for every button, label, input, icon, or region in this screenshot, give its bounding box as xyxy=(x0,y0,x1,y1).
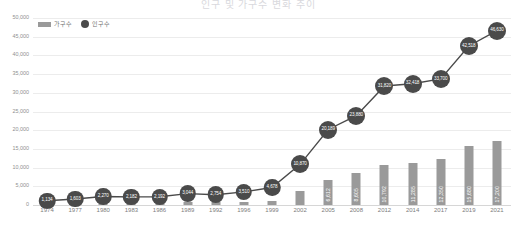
data-point-marker: 42,518 xyxy=(460,37,478,55)
y-axis-tick-label: 0 xyxy=(0,202,29,207)
plot-area: 6,6128,60510,79211,28512,35015,68017,200… xyxy=(33,18,511,205)
data-point-marker: 2,182 xyxy=(123,189,140,206)
data-point-marker: 33,700 xyxy=(432,70,450,88)
y-axis-tick-label: 40,000 xyxy=(0,53,29,58)
chart-title: 인구 및 가구수 변화 추이 xyxy=(0,0,517,9)
chart-legend: 가구수 인구수 xyxy=(38,20,110,28)
data-point-marker: 32,418 xyxy=(404,75,422,93)
x-axis-tick-label: 1977 xyxy=(68,207,81,213)
y-axis-tick-label: 35,000 xyxy=(0,71,29,76)
chart-container: 인구 및 가구수 변화 추이 05,00010,00015,00020,0002… xyxy=(0,0,517,234)
legend-label-households: 가구수 xyxy=(54,21,72,27)
x-axis-tick-label: 1986 xyxy=(153,207,166,213)
data-point-marker: 3,044 xyxy=(179,185,196,202)
x-axis-tick-label: 2014 xyxy=(406,207,419,213)
data-point-marker: 46,630 xyxy=(488,22,506,40)
y-axis-tick-label: 15,000 xyxy=(0,146,29,151)
data-point-marker: 2,754 xyxy=(208,186,225,203)
y-axis-tick-label: 10,000 xyxy=(0,165,29,170)
x-axis-tick-label: 1996 xyxy=(237,207,250,213)
x-axis-tick-label: 2012 xyxy=(378,207,391,213)
y-axis-tick-label: 25,000 xyxy=(0,109,29,114)
data-point-marker: 4,678 xyxy=(264,179,281,196)
x-axis-tick-label: 1999 xyxy=(265,207,278,213)
data-point-marker: 1,603 xyxy=(67,191,84,208)
x-axis-tick-label: 2002 xyxy=(293,207,306,213)
x-axis-tick-label: 1980 xyxy=(97,207,110,213)
data-point-marker: 20,189 xyxy=(319,121,337,139)
y-axis-tick-label: 30,000 xyxy=(0,90,29,95)
x-axis-tick-label: 2019 xyxy=(462,207,475,213)
x-axis-tick-label: 2005 xyxy=(322,207,335,213)
data-point-marker: 2,192 xyxy=(151,189,168,206)
x-axis-tick-label: 2017 xyxy=(434,207,447,213)
y-axis-tick-label: 5,000 xyxy=(0,184,29,189)
gridline xyxy=(33,205,511,206)
y-axis-tick-label: 20,000 xyxy=(0,127,29,132)
legend-label-population: 인구수 xyxy=(92,21,110,27)
legend-item-households[interactable]: 가구수 xyxy=(38,21,72,27)
x-axis-tick-label: 1983 xyxy=(125,207,138,213)
y-axis-tick-label: 45,000 xyxy=(0,34,29,39)
data-point-marker: 10,870 xyxy=(291,155,309,173)
bar-swatch-icon xyxy=(38,22,51,27)
data-point-marker: 2,270 xyxy=(95,188,112,205)
x-axis-tick-label: 1974 xyxy=(40,207,53,213)
data-point-marker: 23,880 xyxy=(347,107,365,125)
x-axis-tick-label: 2008 xyxy=(350,207,363,213)
x-axis-tick-label: 1989 xyxy=(181,207,194,213)
x-axis-tick-label: 2021 xyxy=(490,207,503,213)
legend-item-population[interactable]: 인구수 xyxy=(81,20,110,28)
y-axis-tick-label: 50,000 xyxy=(0,15,29,20)
x-axis-labels: 1974197719801983198619891992199619992002… xyxy=(33,207,511,221)
line-series-population xyxy=(33,18,511,205)
data-point-marker: 3,510 xyxy=(236,184,253,201)
data-point-marker: 31,820 xyxy=(375,77,393,95)
x-axis-tick-label: 1992 xyxy=(209,207,222,213)
circle-marker-icon xyxy=(81,20,89,28)
